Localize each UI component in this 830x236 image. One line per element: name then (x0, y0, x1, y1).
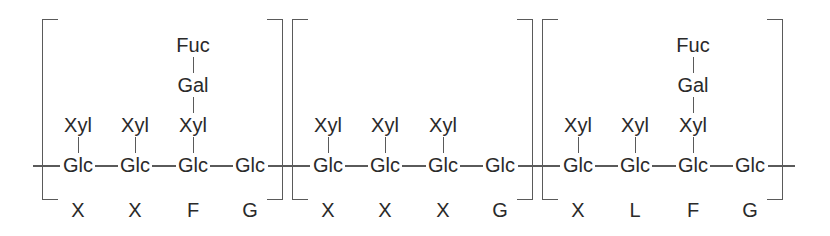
sidechain-residue: Xyl (121, 115, 149, 135)
residue-code-label: F (687, 200, 699, 220)
glycosidic-bond-stub (768, 165, 795, 167)
branch-bond (328, 137, 330, 153)
branch-bond (193, 137, 195, 153)
residue-code-label: L (629, 200, 640, 220)
branch-bond (385, 137, 387, 153)
sidechain-residue: Xyl (314, 115, 342, 135)
branch-bond (135, 137, 137, 153)
backbone-residue: Glc (620, 155, 650, 175)
backbone-bond (95, 165, 118, 167)
branch-bond (693, 137, 695, 153)
branch-bond (578, 137, 580, 153)
backbone-residue: Glc (678, 155, 708, 175)
backbone-bond (152, 165, 176, 167)
glycosidic-bond-stub (33, 165, 60, 167)
right-bracket (267, 19, 283, 200)
xyloglucan-diagram: GlcXXylGlcXXylGlcFXylGalFucGlcGGlcXXylGl… (0, 0, 830, 236)
branch-bond (443, 137, 445, 153)
residue-code-label: G (242, 200, 258, 220)
backbone-bond (595, 165, 618, 167)
backbone-residue: Glc (313, 155, 343, 175)
residue-code-label: G (742, 200, 758, 220)
residue-code-label: X (71, 200, 84, 220)
backbone-bond (460, 165, 483, 167)
glycosidic-bond-stub (283, 165, 310, 167)
backbone-residue: Glc (120, 155, 150, 175)
backbone-residue: Glc (735, 155, 765, 175)
backbone-residue: Glc (485, 155, 515, 175)
backbone-residue: Glc (563, 155, 593, 175)
right-bracket (517, 19, 533, 200)
residue-code-label: X (128, 200, 141, 220)
left-bracket (292, 19, 308, 200)
residue-code-label: G (492, 200, 508, 220)
sidechain-residue: Fuc (676, 35, 709, 55)
residue-code-label: X (571, 200, 584, 220)
branch-bond (78, 137, 80, 153)
sidechain-residue: Xyl (371, 115, 399, 135)
backbone-bond (652, 165, 676, 167)
backbone-bond (345, 165, 368, 167)
backbone-bond (210, 165, 233, 167)
sidechain-residue: Gal (177, 75, 208, 95)
branch-bond (693, 97, 695, 113)
sidechain-residue: Xyl (564, 115, 592, 135)
residue-code-label: F (187, 200, 199, 220)
sidechain-residue: Xyl (179, 115, 207, 135)
sidechain-residue: Xyl (429, 115, 457, 135)
left-bracket (542, 19, 558, 200)
backbone-bond (402, 165, 426, 167)
left-bracket (42, 19, 58, 200)
residue-code-label: X (436, 200, 449, 220)
backbone-residue: Glc (63, 155, 93, 175)
residue-code-label: X (378, 200, 391, 220)
branch-bond (193, 57, 195, 73)
backbone-bond (710, 165, 733, 167)
sidechain-residue: Xyl (679, 115, 707, 135)
sidechain-residue: Gal (677, 75, 708, 95)
branch-bond (635, 137, 637, 153)
sidechain-residue: Fuc (176, 35, 209, 55)
backbone-residue: Glc (235, 155, 265, 175)
branch-bond (193, 97, 195, 113)
sidechain-residue: Xyl (64, 115, 92, 135)
branch-bond (693, 57, 695, 73)
residue-code-label: X (321, 200, 334, 220)
backbone-residue: Glc (370, 155, 400, 175)
backbone-residue: Glc (428, 155, 458, 175)
glycosidic-bond-stub (533, 165, 560, 167)
right-bracket (767, 19, 783, 200)
sidechain-residue: Xyl (621, 115, 649, 135)
backbone-residue: Glc (178, 155, 208, 175)
